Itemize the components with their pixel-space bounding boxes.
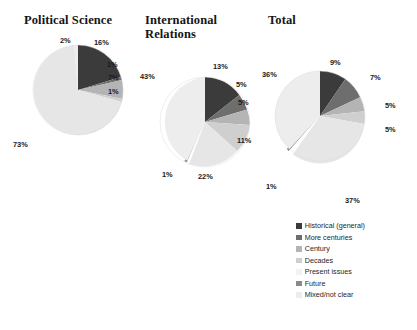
legend-item-label: Decades xyxy=(305,256,333,265)
pie2-label-mixed: 43% xyxy=(140,72,155,81)
legend-item-label: Future xyxy=(305,279,326,288)
pie3-label-future: 1% xyxy=(266,182,277,191)
legend-item-decades[interactable]: Decades xyxy=(296,256,365,266)
figure-canvas: Political Science InternationalRelations… xyxy=(0,0,417,330)
legend-swatch-icon xyxy=(296,281,302,287)
pie3-label-more-centuries: 7% xyxy=(370,73,381,82)
legend-item-label: More centuries xyxy=(305,233,353,242)
legend-item-more-centuries[interactable]: More centuries xyxy=(296,233,365,243)
pie1-label-mixed: 2% xyxy=(60,36,71,45)
legend-item-label: Historical (general) xyxy=(305,221,365,230)
chart-title-international-relations: InternationalRelations xyxy=(145,13,217,41)
pie3-label-decades: 5% xyxy=(385,125,396,134)
legend-swatch-icon xyxy=(296,235,302,241)
pie2-label-future: 1% xyxy=(162,170,173,179)
pie2-label-historical: 13% xyxy=(213,62,228,71)
legend: Historical (general) More centuries Cent… xyxy=(296,221,365,300)
pie3-label-mixed: 36% xyxy=(262,70,277,79)
title-line-2: Relations xyxy=(145,27,196,41)
legend-item-century[interactable]: Century xyxy=(296,244,365,254)
legend-swatch-icon xyxy=(296,292,302,298)
pie2-label-century: 5% xyxy=(238,98,249,107)
chart-title-total: Total xyxy=(268,13,296,27)
legend-swatch-icon xyxy=(296,246,302,252)
legend-item-present-issues[interactable]: Present issues xyxy=(296,267,365,277)
title-line-1: International xyxy=(145,13,217,27)
pie3-label-century: 5% xyxy=(385,101,396,110)
pie-chart-international-relations xyxy=(157,74,257,174)
pie1-label-present-issues: 73% xyxy=(13,140,28,149)
legend-item-historical-general[interactable]: Historical (general) xyxy=(296,221,365,231)
pie2-label-more-centuries: 5% xyxy=(236,80,247,89)
pie3-label-present-issues: 37% xyxy=(345,196,360,205)
legend-swatch-icon xyxy=(296,258,302,264)
pie1-label-historical: 16% xyxy=(94,38,109,47)
pie2-label-decades: 11% xyxy=(237,136,251,145)
pie2-label-present-issues: 22% xyxy=(198,172,213,181)
legend-item-label: Mixed/not clear xyxy=(305,290,354,299)
legend-swatch-icon xyxy=(296,269,302,275)
pie1-label-decades: 1% xyxy=(108,87,119,96)
pie-chart-total xyxy=(272,68,372,168)
pie3-label-historical: 9% xyxy=(330,58,341,67)
legend-item-mixed-not-clear[interactable]: Mixed/not clear xyxy=(296,290,365,300)
pie1-label-more-centuries: 1% xyxy=(107,60,118,69)
chart-title-political-science: Political Science xyxy=(24,13,112,27)
pie1-label-century: 7% xyxy=(108,73,119,82)
legend-swatch-icon xyxy=(296,223,302,229)
legend-item-label: Century xyxy=(305,244,330,253)
legend-item-future[interactable]: Future xyxy=(296,279,365,289)
legend-item-label: Present issues xyxy=(305,267,352,276)
